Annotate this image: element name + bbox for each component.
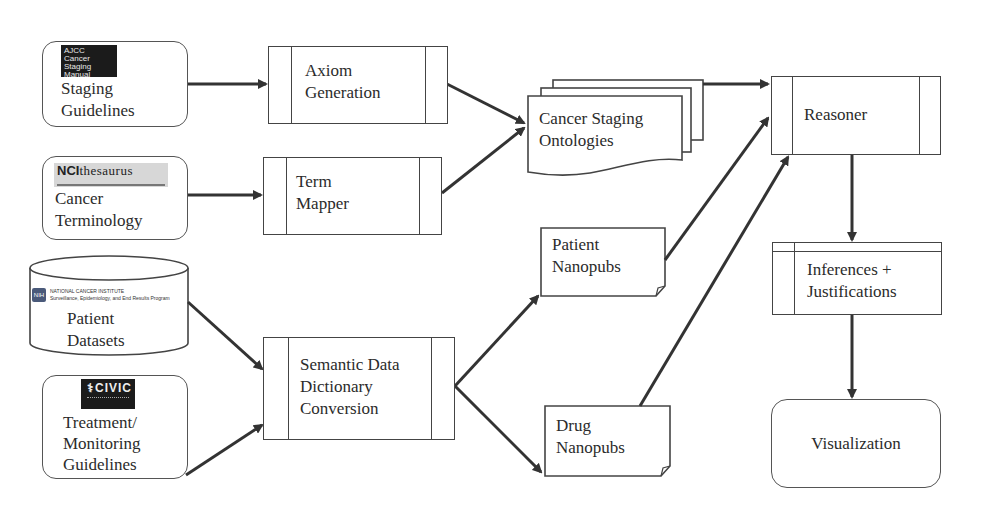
process-bar-left: [286, 158, 287, 234]
patient-nanopubs-label: Patient Nanopubs: [552, 234, 621, 278]
process-bar-left: [288, 338, 289, 439]
arrow-semantic-to-drug-nanopubs: [455, 386, 541, 472]
nci-logo-thesaurus: thesaurus: [79, 163, 133, 178]
seer-logo-line2: Surveillance, Epidemiology, and End Resu…: [50, 295, 170, 302]
patient-datasets-label: Patient Datasets: [67, 308, 125, 352]
storage-bar-vertical: [794, 243, 795, 314]
civic-logo-caduceus-icon: ⚕: [87, 381, 95, 395]
inferences-justifications-node[interactable]: Inferences + Justifications: [772, 242, 942, 315]
nci-logo-bold: NCI: [57, 163, 79, 178]
staging-guidelines-label: Staging Guidelines: [61, 78, 135, 122]
patient-nanopubs-node[interactable]: Patient Nanopubs: [541, 228, 665, 296]
axiom-generation-label: Axiom Generation: [305, 60, 381, 104]
civic-logo-text: CIVIC: [95, 381, 132, 395]
arrow-mapper-to-ontologies: [442, 128, 524, 193]
visualization-node[interactable]: Visualization: [771, 399, 941, 488]
treatment-guidelines-node[interactable]: ⚕CIVIC Treatment/ Monitoring Guidelines: [42, 375, 188, 479]
semantic-conversion-node[interactable]: Semantic Data Dictionary Conversion: [263, 337, 455, 440]
patient-datasets-node[interactable]: NIH NATIONAL CANCER INSTITUTE Surveillan…: [30, 256, 188, 356]
term-mapper-node[interactable]: Term Mapper: [263, 157, 442, 235]
civic-logo-subline: [87, 397, 129, 404]
nci-logo-subline: [57, 184, 165, 186]
staging-guidelines-node[interactable]: AJCC Cancer Staging Manual Staging Guide…: [42, 41, 188, 127]
process-bar-left: [792, 77, 793, 154]
arrow-guidelines-to-semantic: [186, 425, 262, 475]
arrow-datasets-to-semantic: [188, 302, 262, 369]
process-bar-left: [291, 47, 292, 123]
treatment-guidelines-label: Treatment/ Monitoring Guidelines: [63, 412, 140, 475]
reasoner-node[interactable]: Reasoner: [771, 76, 941, 155]
civic-logo: ⚕CIVIC: [81, 379, 135, 409]
nci-thesaurus-logo: NCIthesaurus: [54, 163, 168, 187]
term-mapper-label: Term Mapper: [296, 171, 349, 215]
cancer-staging-ontologies-label: Cancer Staging Ontologies: [539, 108, 643, 152]
process-bar-right: [425, 47, 426, 123]
cancer-terminology-label: Cancer Terminology: [55, 188, 143, 232]
arrow-axiom-to-ontologies: [447, 84, 524, 123]
cancer-terminology-node[interactable]: NCIthesaurus Cancer Terminology: [42, 156, 188, 240]
storage-bar-horizontal: [773, 251, 941, 252]
arrow-semantic-to-patient-nanopubs: [455, 296, 538, 386]
cancer-staging-ontologies-node[interactable]: Cancer Staging Ontologies: [528, 96, 682, 174]
process-bar-right: [419, 158, 420, 234]
nih-seer-logo: NIH NATIONAL CANCER INSTITUTE Surveillan…: [32, 288, 186, 304]
inferences-justifications-label: Inferences + Justifications: [807, 259, 897, 303]
nih-badge: NIH: [32, 288, 46, 302]
ajcc-logo: AJCC Cancer Staging Manual: [61, 45, 117, 77]
process-bar-right: [431, 338, 432, 439]
semantic-conversion-label: Semantic Data Dictionary Conversion: [300, 354, 400, 420]
drug-nanopubs-label: Drug Nanopubs: [556, 415, 625, 459]
reasoner-label: Reasoner: [804, 104, 867, 126]
visualization-label: Visualization: [772, 433, 940, 455]
drug-nanopubs-node[interactable]: Drug Nanopubs: [545, 406, 670, 476]
process-bar-right: [919, 77, 920, 154]
axiom-generation-node[interactable]: Axiom Generation: [268, 46, 448, 124]
seer-logo-line1: NATIONAL CANCER INSTITUTE: [50, 288, 124, 295]
